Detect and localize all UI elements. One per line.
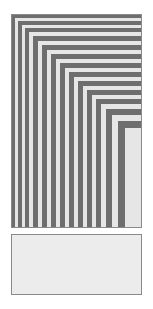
lower-panel	[11, 234, 142, 295]
figure-root	[0, 0, 153, 309]
nested-band-panel	[11, 14, 142, 228]
band-ring-25	[125, 128, 141, 227]
